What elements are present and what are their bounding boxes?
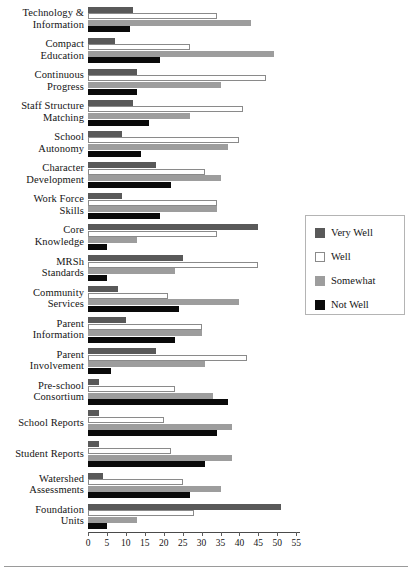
bar bbox=[88, 523, 107, 529]
bar-group bbox=[88, 97, 300, 128]
bar bbox=[88, 169, 205, 175]
figure-bottom-rule bbox=[4, 566, 408, 567]
category-label-line: Pre-school bbox=[0, 380, 84, 392]
category-label: FoundationUnits bbox=[0, 504, 84, 527]
bar bbox=[88, 293, 168, 299]
legend-item: Somewhat bbox=[315, 275, 375, 287]
bar bbox=[88, 448, 171, 454]
bar bbox=[88, 299, 239, 305]
bar bbox=[88, 348, 156, 354]
bar bbox=[88, 379, 99, 385]
bar bbox=[88, 386, 175, 392]
category-label-line: Parent bbox=[0, 318, 84, 330]
bar bbox=[88, 162, 156, 168]
bar-group bbox=[88, 252, 300, 283]
category-label: Staff StructureMatching bbox=[0, 100, 84, 123]
bar bbox=[88, 144, 228, 150]
bar bbox=[88, 417, 164, 423]
bar bbox=[88, 317, 126, 323]
bar bbox=[88, 510, 194, 516]
category-label-line: Information bbox=[0, 19, 84, 31]
legend-label: Well bbox=[331, 251, 351, 263]
x-tick-label: 50 bbox=[273, 538, 283, 549]
x-tick-label: 25 bbox=[178, 538, 188, 549]
bar bbox=[88, 473, 103, 479]
bar bbox=[88, 106, 243, 112]
bar bbox=[88, 268, 175, 274]
category-label-line: Knowledge bbox=[0, 236, 84, 248]
bar-group bbox=[88, 439, 300, 470]
bar bbox=[88, 517, 137, 523]
bar bbox=[88, 206, 217, 212]
category-label-line: Character bbox=[0, 162, 84, 174]
bar bbox=[88, 175, 221, 181]
bar bbox=[88, 137, 239, 143]
legend-label: Very Well bbox=[331, 227, 373, 239]
legend-label: Not Well bbox=[331, 299, 369, 311]
category-label: WatershedAssessments bbox=[0, 473, 84, 496]
category-label-line: Watershed bbox=[0, 473, 84, 485]
bar-group bbox=[88, 346, 300, 377]
bar-group bbox=[88, 4, 300, 35]
x-tick-label: 30 bbox=[197, 538, 207, 549]
category-label-line: Involvement bbox=[0, 360, 84, 372]
bar bbox=[88, 151, 141, 157]
category-label: ParentInformation bbox=[0, 318, 84, 341]
bar-group bbox=[88, 501, 300, 532]
x-tick-label: 55 bbox=[291, 538, 301, 549]
x-tick-label: 45 bbox=[254, 538, 264, 549]
bar bbox=[88, 224, 258, 230]
category-label-line: Staff Structure bbox=[0, 100, 84, 112]
x-tick bbox=[183, 532, 184, 536]
bar bbox=[88, 424, 232, 430]
x-tick-label: 40 bbox=[235, 538, 245, 549]
bar bbox=[88, 337, 175, 343]
bar bbox=[88, 410, 99, 416]
x-tick-label: 10 bbox=[121, 538, 131, 549]
bar bbox=[88, 193, 122, 199]
x-tick-label: 0 bbox=[86, 538, 91, 549]
bar bbox=[88, 361, 205, 367]
bar bbox=[88, 430, 217, 436]
category-label-line: Education bbox=[0, 50, 84, 62]
category-label-line: Matching bbox=[0, 112, 84, 124]
category-label-line: Community bbox=[0, 287, 84, 299]
category-label-line: Standards bbox=[0, 267, 84, 279]
plot-area bbox=[88, 4, 300, 532]
bar bbox=[88, 461, 205, 467]
category-label-line: Information bbox=[0, 329, 84, 341]
category-label-line: Compact bbox=[0, 38, 84, 50]
x-tick bbox=[277, 532, 278, 536]
bar-group bbox=[88, 284, 300, 315]
legend-swatch-icon bbox=[315, 252, 325, 262]
bar bbox=[88, 120, 149, 126]
category-label-line: Progress bbox=[0, 81, 84, 93]
x-tick-label: 5 bbox=[105, 538, 110, 549]
category-label: CompactEducation bbox=[0, 38, 84, 61]
legend-swatch-icon bbox=[315, 300, 325, 310]
category-label-line: MRSh bbox=[0, 256, 84, 268]
bar-group bbox=[88, 35, 300, 66]
category-label: CharacterDevelopment bbox=[0, 162, 84, 185]
category-label-line: Consortium bbox=[0, 391, 84, 403]
category-label-line: Skills bbox=[0, 205, 84, 217]
bar bbox=[88, 26, 130, 32]
bar bbox=[88, 368, 111, 374]
bar bbox=[88, 44, 190, 50]
bar bbox=[88, 355, 247, 361]
category-label-line: Autonomy bbox=[0, 143, 84, 155]
category-label: Work ForceSkills bbox=[0, 193, 84, 216]
category-label-line: Foundation bbox=[0, 504, 84, 516]
legend-item: Very Well bbox=[315, 227, 373, 239]
bar bbox=[88, 262, 258, 268]
legend-item: Well bbox=[315, 251, 351, 263]
bar bbox=[88, 213, 160, 219]
bar-group bbox=[88, 315, 300, 346]
bar bbox=[88, 504, 281, 510]
bar bbox=[88, 306, 179, 312]
bar bbox=[88, 393, 213, 399]
bar bbox=[88, 324, 202, 330]
bar bbox=[88, 100, 133, 106]
bar bbox=[88, 441, 99, 447]
bar bbox=[88, 51, 274, 57]
